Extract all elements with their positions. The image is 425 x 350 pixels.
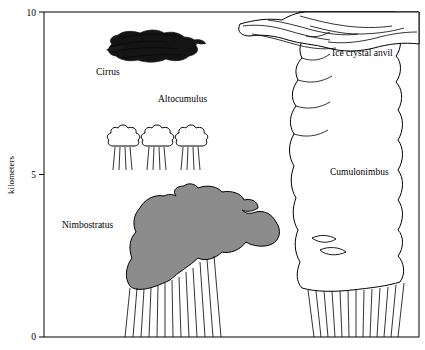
label-cumulonimbus: Cumulonimbus [330, 167, 389, 177]
label-ice-crystal-anvil: Ice crystal anvil [332, 48, 393, 58]
y-tick-label-10: 10 [27, 8, 37, 18]
label-cirrus: Cirrus [96, 67, 120, 77]
label-nimbostratus: Nimbostratus [62, 220, 113, 230]
y-tick-label-5: 5 [31, 170, 36, 180]
cloud-types-diagram: 10 5 0 kilometers Cirrus [0, 0, 425, 350]
y-tick-label-0: 0 [31, 332, 36, 342]
diagram-canvas: 10 5 0 kilometers Cirrus [0, 0, 425, 350]
label-altocumulus: Altocumulus [158, 94, 207, 104]
y-axis-title: kilometers [6, 156, 16, 194]
